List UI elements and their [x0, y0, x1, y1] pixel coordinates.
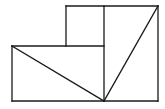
- geometric-diagram: [0, 0, 165, 109]
- diagonal-left-line: [12, 46, 104, 101]
- diagonal-right-line: [104, 6, 158, 101]
